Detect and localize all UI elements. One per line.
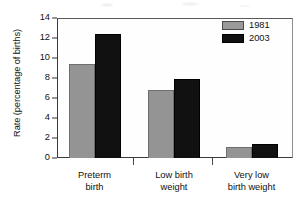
x-axis-label-line: birth weight: [207, 182, 297, 194]
bar-2003-group-2: [174, 79, 200, 159]
x-axis-label-3: Very lowbirth weight: [207, 170, 297, 193]
x-axis-label-line: weight: [129, 182, 219, 194]
bar-1981-group-1: [69, 64, 95, 158]
y-axis-tick: [52, 158, 57, 159]
scan-artifact: [95, 1, 265, 9]
y-axis-title: Rate (percentage of births): [12, 8, 22, 158]
legend-label-1981: 1981: [249, 21, 270, 30]
y-axis-tick-label: 0: [45, 153, 50, 162]
legend-swatch-1981: [222, 21, 244, 30]
x-axis-label-1: Pretermbirth: [50, 170, 140, 193]
y-axis-tick: [52, 78, 57, 79]
y-axis-tick-label: 8: [45, 73, 50, 82]
x-axis-separator-tick: [212, 158, 213, 165]
y-axis-tick: [52, 38, 57, 39]
legend-swatch-2003: [222, 34, 244, 43]
x-axis-label-line: birth: [50, 182, 140, 194]
y-axis-tick-label: 12: [40, 33, 50, 42]
bar-1981-group-3: [226, 147, 252, 158]
legend-label-2003: 2003: [249, 34, 270, 43]
bar-2003-group-3: [252, 144, 278, 159]
bar-chart-figure: Rate (percentage of births) 02468101214 …: [0, 0, 303, 207]
y-axis-tick: [52, 138, 57, 139]
y-axis-tick: [52, 18, 57, 19]
y-axis-tick-label: 4: [45, 113, 50, 122]
bar-1981-group-2: [148, 90, 174, 159]
x-axis-label-line: Very low: [207, 170, 297, 182]
legend-item-2003: 2003: [222, 33, 270, 44]
legend-item-1981: 1981: [222, 20, 270, 31]
y-axis-tick: [52, 98, 57, 99]
chart-legend: 1981 2003: [222, 20, 270, 44]
bar-2003-group-1: [95, 34, 121, 158]
x-axis-label-line: Low birth: [129, 170, 219, 182]
y-axis-tick-label: 2: [45, 133, 50, 142]
y-axis-tick-label: 14: [40, 13, 50, 22]
y-axis-tick-label: 6: [45, 93, 50, 102]
y-axis-tick: [52, 118, 57, 119]
x-axis-label-line: Preterm: [50, 170, 140, 182]
x-axis-separator-tick: [133, 158, 134, 165]
y-axis-tick: [52, 58, 57, 59]
y-axis-tick-label: 10: [40, 53, 50, 62]
x-axis-label-2: Low birthweight: [129, 170, 219, 193]
